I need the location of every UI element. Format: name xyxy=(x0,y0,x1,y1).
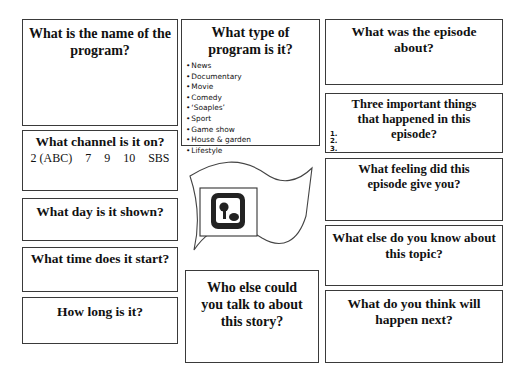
channel-option[interactable]: 9 xyxy=(104,151,110,166)
time-box[interactable]: What time does it start? xyxy=(22,247,178,292)
next-box[interactable]: What do you think will happen next? xyxy=(325,290,503,363)
program-type-option[interactable]: House & garden xyxy=(186,135,251,146)
channel-option[interactable]: 10 xyxy=(123,151,135,166)
three-things-numbers: 1. 2. 3. xyxy=(330,131,338,153)
program-type-option[interactable]: News xyxy=(186,61,251,72)
day-box[interactable]: What day is it shown? xyxy=(22,198,178,241)
else-know-question: What else do you know about this topic? xyxy=(326,230,502,262)
program-type-box[interactable]: What type of program is it? News Documen… xyxy=(181,19,320,146)
who-else-box[interactable]: Who else could you talk to about this st… xyxy=(185,270,319,363)
feeling-question: What feeling did this episode give you? xyxy=(326,162,502,192)
channel-box[interactable]: What channel is it on? 2 (ABC) 7 9 10 SB… xyxy=(22,130,178,191)
feeling-box[interactable]: What feeling did this episode give you? xyxy=(325,158,503,221)
flag-banner-icon xyxy=(186,158,316,254)
channel-option[interactable]: SBS xyxy=(148,151,169,166)
episode-about-box[interactable]: What was the episode about? xyxy=(325,19,503,85)
day-question: What day is it shown? xyxy=(23,204,177,220)
who-else-question: Who else could you talk to about this st… xyxy=(186,279,318,330)
channel-option[interactable]: 7 xyxy=(85,151,91,166)
program-type-option[interactable]: Lifestyle xyxy=(186,146,251,157)
channel-options: 2 (ABC) 7 9 10 SBS xyxy=(23,151,177,166)
item-number: 3. xyxy=(330,146,338,153)
episode-about-question: What was the episode about? xyxy=(326,24,502,56)
program-type-option[interactable]: Comedy xyxy=(186,93,251,104)
time-question: What time does it start? xyxy=(23,251,177,267)
program-type-option[interactable]: Documentary xyxy=(186,72,251,83)
program-type-options: News Documentary Movie Comedy ‘Soaples’ … xyxy=(186,61,251,156)
program-name-question: What is the name of the program? xyxy=(23,25,177,59)
three-things-question: Three important things that happened in … xyxy=(326,97,502,142)
program-type-option[interactable]: Movie xyxy=(186,82,251,93)
program-type-option[interactable]: Sport xyxy=(186,114,251,125)
length-question: How long is it? xyxy=(23,304,177,320)
program-type-option[interactable]: ‘Soaples’ xyxy=(186,103,251,114)
next-question: What do you think will happen next? xyxy=(326,296,502,328)
program-name-box[interactable]: What is the name of the program? xyxy=(22,19,178,126)
channel-option[interactable]: 2 (ABC) xyxy=(30,151,72,166)
else-know-box[interactable]: What else do you know about this topic? xyxy=(325,225,503,286)
three-things-box[interactable]: Three important things that happened in … xyxy=(325,93,503,153)
program-type-question: What type of program is it? xyxy=(182,24,319,58)
program-type-option[interactable]: Game show xyxy=(186,125,251,136)
tv-icon xyxy=(211,193,245,229)
length-box[interactable]: How long is it? xyxy=(22,297,178,344)
channel-question: What channel is it on? xyxy=(23,134,177,150)
